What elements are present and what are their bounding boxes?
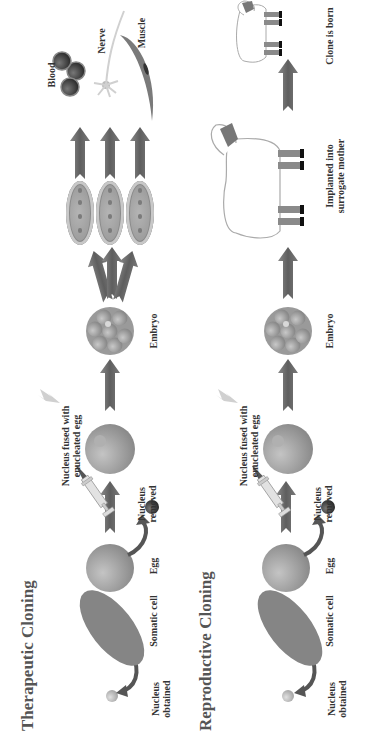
petri-dish-3: [126, 181, 154, 245]
label-clone-born: Clone is born: [324, 1, 335, 71]
label-somatic-cell-2: Somatic cell: [324, 586, 335, 656]
label-nerve: Nerve: [96, 21, 107, 61]
label-egg-2: Egg: [324, 551, 335, 581]
label-embryo: Embryo: [148, 311, 159, 351]
cloning-diagram: Therapeutic Cloning Nucleus obtained Som…: [0, 0, 370, 751]
label-somatic-cell: Somatic cell: [148, 586, 159, 656]
label-nucleus-obtained: Nucleus obtained: [150, 669, 172, 729]
label-nucleus-fused-2: Nucleus fused with enucleated egg: [238, 391, 260, 501]
label-egg: Egg: [148, 551, 159, 581]
petri-dish-2: [96, 181, 124, 245]
label-nucleus-removed: Nucleus removed: [136, 479, 158, 529]
label-nucleus-removed-2: Nucleus removed: [312, 479, 334, 529]
label-implanted-surrogate: Implanted into surrogate mother: [324, 131, 346, 221]
therapeutic-cloning-title: Therapeutic Cloning: [18, 580, 38, 731]
diagram-graphics: [0, 0, 370, 751]
petri-dish-1: [66, 181, 94, 245]
label-nucleus-obtained-2: Nucleus obtained: [326, 669, 348, 729]
label-nucleus-fused: Nucleus fused with enucleated egg: [60, 391, 82, 501]
label-blood: Blood: [46, 55, 57, 95]
reproductive-cloning-title: Reproductive Cloning: [196, 571, 216, 731]
label-muscle: Muscle: [136, 11, 147, 55]
label-embryo-2: Embryo: [324, 311, 335, 351]
